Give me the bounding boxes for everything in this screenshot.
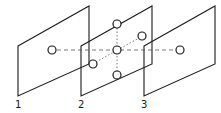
plane-3-label: 3 [141,99,147,110]
node-p3-center [176,46,184,54]
node-p1-center [48,46,56,54]
plane-1-label: 1 [15,99,21,110]
node-p2-front [89,60,97,68]
diagram-canvas: 1 2 3 [0,0,221,113]
node-p2-bottom [113,71,121,79]
node-p2-top [113,20,121,28]
node-p2-back [138,32,146,40]
node-p2-center [113,46,121,54]
plane-2-label: 2 [78,99,84,110]
